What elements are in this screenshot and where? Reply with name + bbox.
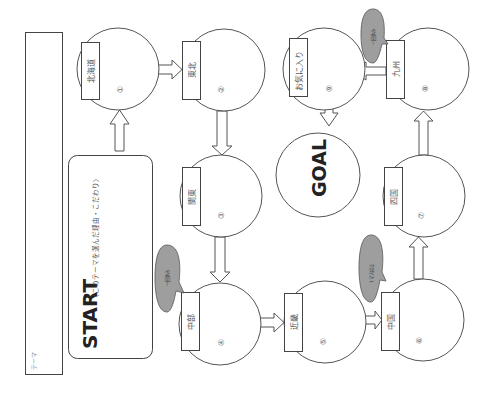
start-note: 〈このテーマを選んだ理由・こだわり〉: [91, 175, 100, 301]
stop-1: 北海道 ①: [77, 28, 159, 110]
stop-1-region: 北海道: [86, 59, 96, 83]
theme-label: テーマ: [30, 352, 38, 370]
stop-5-number: ⑤: [319, 338, 328, 345]
stop-2: 東北 ②: [183, 29, 266, 111]
stop-7-region: 四国: [390, 189, 399, 205]
arrow-1-to-2: [158, 60, 182, 79]
arrow-start-to-1: [110, 110, 129, 151]
stop-9-region: お気に入り: [294, 51, 304, 91]
stop-2-region: 東北: [187, 62, 197, 78]
arrow-4-to-5: [260, 313, 284, 332]
stop-9-number: ⑨: [325, 85, 334, 92]
arrow-6-to-7: [409, 237, 428, 279]
balloon-stop-6-text: 1マス戻る: [368, 264, 375, 283]
balloon-stop-8-text: 一回休み: [370, 28, 377, 45]
stop-8-region: 九州: [392, 61, 401, 77]
stop-7-number: ⑦: [417, 212, 426, 219]
stop-3: 関東 ③: [180, 155, 262, 237]
stop-8: 九州 ⑧: [387, 28, 470, 110]
start-box: START 〈このテーマを選んだ理由・こだわり〉: [69, 156, 153, 359]
stop-2-number: ②: [217, 86, 226, 93]
stop-6-region: 中国: [386, 314, 396, 330]
balloon-stop-8: 一回休み: [361, 9, 388, 63]
arrow-3-to-4: [210, 237, 230, 282]
theme-box: テーマ: [26, 33, 63, 375]
stop-6: 中国 ⑥: [382, 279, 465, 361]
stop-6-number: ⑥: [415, 337, 424, 344]
stop-4-region: 中部: [186, 314, 196, 330]
stop-4: 中部 ④: [179, 283, 261, 365]
balloon-stop-4: 一回休み: [155, 245, 184, 312]
stop-1-number: ①: [116, 86, 125, 93]
balloon-stop-4-text: 一回休み: [164, 269, 171, 286]
sugoroku-diagram: テーマ START 〈このテーマを選んだ理由・こだわり〉 北海道 ① 東北 ②: [0, 0, 479, 406]
stop-3-region: 関東: [187, 189, 197, 205]
stop-7: 四国 ⑦: [383, 155, 465, 237]
stop-4-number: ④: [217, 339, 226, 346]
arrow-2-to-3: [212, 111, 232, 155]
stop-3-number: ③: [217, 212, 226, 219]
goal-label: GOAL: [308, 139, 330, 197]
stop-5: 近畿 ⑤: [284, 281, 366, 363]
arrow-7-to-8: [414, 111, 433, 155]
goal-circle: GOAL: [276, 133, 360, 217]
balloon-stop-6: 1マス戻る: [359, 235, 386, 302]
stop-5-region: 近畿: [289, 314, 299, 330]
stop-8-number: ⑧: [421, 85, 430, 92]
stop-9: お気に入り ⑨: [283, 28, 365, 110]
